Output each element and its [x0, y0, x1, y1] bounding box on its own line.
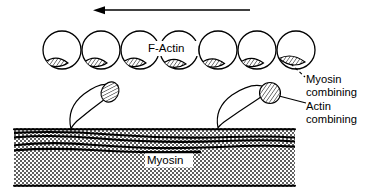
actin-myosin-diagram: F-Actin Myosin: [0, 0, 373, 194]
movement-direction-arrow: [93, 6, 250, 14]
right-myosin-head: [260, 83, 281, 104]
left-cross-bridge: [70, 79, 123, 129]
figure-root: F-Actin Myosin: [0, 0, 373, 194]
right-cross-bridge-arm: [217, 85, 265, 128]
actin-monomer: [43, 31, 81, 69]
f-actin-filament: F-Actin: [43, 31, 315, 69]
arrow-head-icon: [93, 6, 105, 14]
myosin-filament-label: Myosin: [147, 154, 183, 166]
actin-monomer: [199, 31, 237, 69]
myosin-combining-label-line1: Myosin: [306, 73, 341, 85]
actin-combining-label-line2: combining: [306, 113, 357, 125]
actin-monomer: [82, 31, 120, 69]
actin-combining-leader-line: [279, 96, 306, 103]
myosin-combining-label-line2: combining: [306, 86, 357, 98]
actin-monomer: [238, 31, 276, 69]
right-cross-bridge: [217, 83, 280, 129]
actin-combining-label-line1: Actin: [306, 100, 331, 112]
actin-combining-callout-leader: [279, 96, 306, 103]
myosin-thick-filament: Myosin: [12, 128, 300, 187]
factin-label: F-Actin: [148, 42, 184, 54]
callout-text-block: Myosin combining Actin combining: [306, 73, 357, 126]
actin-monomer: [277, 31, 315, 69]
